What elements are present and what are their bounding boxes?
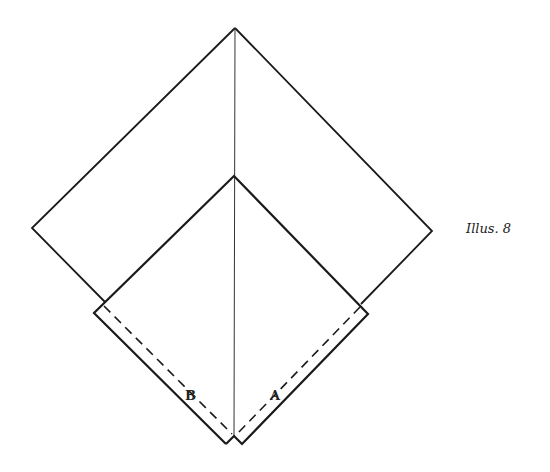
dashed-fold-line-b (104, 306, 232, 434)
outer-square-right-edge (235, 28, 432, 304)
dashed-fold-line-a (237, 307, 360, 434)
illustration-caption: Illus. 8 (466, 221, 511, 236)
outer-square-left-edge (32, 28, 235, 302)
center-crease-line (234, 28, 235, 436)
label-b: B (185, 388, 196, 403)
label-a: A (269, 388, 281, 403)
inner-square-outline (94, 176, 368, 444)
fold-diagram: B A (0, 0, 550, 472)
